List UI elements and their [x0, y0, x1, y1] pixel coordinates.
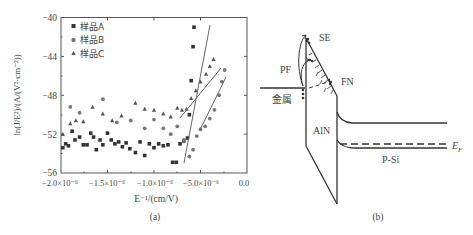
data-point — [113, 142, 117, 146]
fit-line-a — [184, 25, 210, 163]
legend-label-a: 样品A — [80, 21, 105, 32]
label-aln: AlN — [313, 125, 330, 136]
data-point — [73, 138, 77, 142]
label-ef: EF — [451, 140, 463, 153]
trap-states-hatch — [309, 53, 333, 94]
electron-icon — [311, 60, 313, 62]
data-point — [119, 113, 123, 117]
data-point — [98, 138, 102, 142]
y-axis-label: ln(J/E²)/(A/(V²·cm⁻²)) — [12, 54, 22, 135]
data-point — [169, 114, 173, 118]
aln-valence-slant — [306, 146, 337, 204]
figure-canvas: −40 −44 −48 −52 −56 −2.0×10⁻⁶ −1.5×10⁻⁶ … — [0, 0, 473, 235]
data-point — [95, 148, 99, 152]
y-tick-label: −52 — [42, 130, 57, 140]
data-point — [138, 140, 142, 144]
data-point — [208, 64, 212, 68]
data-point — [74, 118, 78, 122]
data-point — [203, 124, 207, 128]
electron-icon — [302, 97, 305, 100]
data-point — [161, 112, 165, 116]
x-tick-label: −5.0×10⁻⁶ — [183, 178, 219, 188]
x-axis-label: E⁻¹/(cm/V) — [134, 194, 178, 205]
data-point — [178, 142, 182, 146]
se-arrow — [299, 35, 306, 86]
data-point — [78, 135, 82, 139]
data-point — [101, 112, 105, 116]
data-point — [157, 142, 161, 146]
data-point — [115, 121, 119, 125]
data-point — [124, 141, 128, 145]
data-point — [61, 146, 65, 150]
data-point — [195, 134, 199, 138]
legend-label-c: 样品C — [80, 48, 104, 59]
x-tick-label: −1.0×10⁻⁶ — [137, 178, 173, 188]
electron-icon — [307, 38, 309, 40]
data-point — [117, 140, 121, 144]
data-point — [85, 143, 89, 147]
data-point — [175, 161, 179, 165]
triangle-marker-icon — [71, 51, 75, 55]
data-point — [204, 72, 208, 76]
label-ef-sub: F — [457, 146, 463, 153]
data-point — [188, 113, 192, 117]
data-point — [91, 105, 95, 109]
data-point — [143, 126, 147, 130]
label-pf: PF — [280, 64, 292, 75]
data-point — [92, 135, 96, 139]
data-point — [189, 79, 193, 83]
data-point — [152, 118, 156, 122]
x-tick-label: −2.0×10⁻⁶ — [42, 178, 78, 188]
data-point — [121, 145, 125, 149]
data-point — [81, 119, 85, 123]
data-point — [192, 25, 196, 29]
x-axis-ticks — [84, 18, 224, 174]
data-point — [78, 111, 82, 115]
data-point — [189, 96, 193, 100]
data-point — [211, 57, 215, 61]
data-point — [110, 118, 114, 122]
data-point — [208, 117, 212, 121]
x-tick-label: −1.5×10⁻⁶ — [89, 178, 125, 188]
data-point — [70, 129, 74, 133]
y-tick-label: −56 — [42, 168, 57, 178]
data-point — [171, 161, 175, 165]
panel-b-labels: SE PF FN 金属 AlN P-Si EF (b) — [272, 32, 463, 223]
square-marker-icon — [72, 24, 76, 28]
electron-icon — [328, 79, 330, 81]
y-tick-labels: −40 −44 −48 −52 −56 — [42, 13, 57, 178]
label-se: SE — [319, 32, 331, 43]
data-point — [129, 119, 133, 123]
y-tick-label: −40 — [42, 13, 57, 23]
fit-line-c — [200, 77, 226, 130]
pf-arrow — [301, 60, 309, 86]
data-point — [162, 144, 166, 148]
y-tick-label: −44 — [42, 52, 57, 62]
data-point — [152, 146, 156, 150]
data-point — [134, 151, 138, 155]
tunnel-dashed-line — [309, 82, 328, 88]
electron-icon — [329, 83, 331, 85]
data-point — [106, 131, 110, 135]
data-point — [187, 155, 191, 159]
data-point — [148, 142, 152, 146]
si-conduction-band — [337, 112, 447, 123]
panel-b-caption: (b) — [372, 212, 383, 223]
panel-b-band-diagram — [260, 35, 447, 204]
label-metal: 金属 — [272, 93, 292, 105]
data-point — [175, 106, 179, 110]
legend: 样品A 样品B 样品C — [71, 21, 105, 59]
data-point — [68, 105, 72, 109]
circle-marker-icon — [71, 38, 75, 42]
data-point — [143, 107, 147, 111]
data-point — [152, 108, 156, 112]
x-tick-label: 0.0 — [239, 178, 250, 188]
data-point — [182, 138, 186, 142]
panel-a-caption: (a) — [150, 212, 161, 223]
panel-a-chart: −40 −44 −48 −52 −56 −2.0×10⁻⁶ −1.5×10⁻⁶ … — [12, 13, 249, 223]
label-ef-main: E — [451, 140, 458, 151]
data-point — [143, 154, 147, 158]
data-point — [213, 108, 217, 112]
legend-label-b: 样品B — [80, 34, 104, 45]
data-point — [89, 131, 93, 135]
